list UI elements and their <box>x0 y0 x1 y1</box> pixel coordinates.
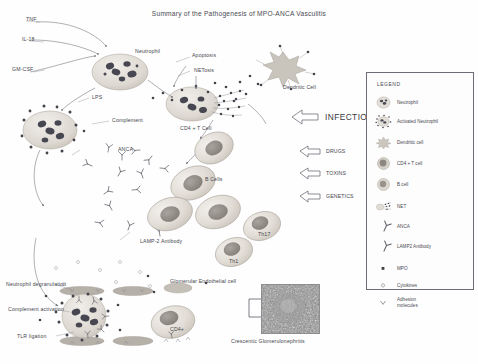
legend-item-anca: ANCA <box>375 219 410 234</box>
label-netosis: NETosis <box>194 67 214 74</box>
label-complement: Complement <box>112 117 143 124</box>
lamp2-antibody-icon <box>375 239 392 254</box>
label-genetics: GENETICS <box>326 193 354 200</box>
mpo-icon <box>375 261 392 276</box>
legend-label: Adhesion molecules <box>397 297 418 309</box>
legend-item-dendritic-cell: Dendritic cell <box>375 135 423 150</box>
label-toxins: TOXINS <box>326 170 346 177</box>
neutrophil-adherent <box>39 289 144 344</box>
arrow-toxins <box>300 168 320 179</box>
glomerular-endothelial-cell-icon <box>164 283 192 293</box>
cytokines-icon <box>375 278 392 293</box>
label-lamp2-antibody: LAMP-2 Antibody <box>140 238 182 245</box>
anca-icon <box>375 219 392 234</box>
label-th17: Th17 <box>258 231 270 238</box>
diagram-canvas: Summary of the Pathogenesis of MPO-ANCA … <box>0 0 478 364</box>
label-cd4-t-cell: CD4 + T Cell <box>180 125 211 132</box>
label-th1: Th1 <box>229 258 238 265</box>
net-strands <box>212 90 246 115</box>
legend-title: LEGEND <box>377 81 401 87</box>
activated-neutrophil-icon <box>375 114 392 129</box>
neutrophil-netosis <box>166 87 246 121</box>
neutrophil-activated-left <box>21 105 86 155</box>
label-lps: LPS <box>92 94 102 101</box>
legend-item-net: NET <box>375 199 406 214</box>
legend-item-b-cell: B cell <box>375 177 408 192</box>
legend-item-neutrophil: Neutrophil <box>375 95 418 110</box>
arrow-genetics <box>300 191 320 202</box>
label-tlr-ligation: TLR ligation <box>17 333 46 340</box>
label-anca: ANCA <box>118 146 133 153</box>
legend-item-lamp2-antibody: LAMP2 Antibody <box>375 239 431 254</box>
cd4-positive-cell <box>148 302 198 342</box>
net-icon <box>375 199 392 214</box>
label-apoptosis: Apoptosis <box>192 52 216 59</box>
label-cd4-positive: CD4+ <box>170 326 184 333</box>
legend-label: B cell <box>397 182 408 188</box>
neutrophil-resting <box>92 54 148 90</box>
cd4-t-cell-icon <box>375 156 392 171</box>
adhesion-molecules-icon <box>375 295 392 310</box>
legend-item-cd4-t-cell: CD4 + T cell <box>375 156 422 171</box>
arrow-drugs <box>300 146 320 157</box>
b-cell-icon <box>375 177 392 192</box>
legend-item-adhesion-molecules: Adhesion molecules <box>375 295 418 310</box>
legend-panel: LEGEND Neutrophil <box>366 72 474 290</box>
legend-item-activated-neutrophil: Activated Neutrophil <box>375 114 438 129</box>
label-complement-activation: Complement activation <box>8 306 64 313</box>
legend-label: Cytokines <box>397 283 417 289</box>
label-drugs: DRUGS <box>326 148 345 155</box>
process-arrows <box>34 66 266 306</box>
legend-label: ANCA <box>397 224 410 230</box>
legend-label: NET <box>397 204 406 210</box>
caption-outcome: Crescentic Glomerulonephritis <box>231 338 305 345</box>
legend-label: LAMP2 Antibody <box>397 244 431 250</box>
cytokine-particles-bottom <box>55 261 152 288</box>
label-il18: IL-18 <box>22 36 35 43</box>
neutrophil-icon <box>375 95 392 110</box>
label-tnf: TNF <box>26 16 37 23</box>
label-dendritic-cell: Dendritic Cell <box>283 84 316 91</box>
label-glomerular-endothelial-cell: Glomerular Endothelial cell <box>170 278 236 285</box>
legend-item-mpo: MPO <box>375 261 407 276</box>
cd4-t-cell <box>190 126 239 170</box>
label-neutrophil: Neutrophil <box>135 48 160 55</box>
label-neutrophil-degranulation: Neutrophil degranulation <box>6 281 66 288</box>
legend-label: MPO <box>397 266 407 272</box>
arrow-infection <box>292 110 318 124</box>
legend-label: Activated Neutrophil <box>397 119 438 125</box>
legend-label: Neutrophil <box>397 100 418 106</box>
legend-label: Dendritic cell <box>397 140 423 146</box>
crescentic-glomerulonephritis-image <box>261 284 320 334</box>
label-gmcsf: GM-CSF <box>12 66 33 73</box>
label-b-cells: B Cells <box>205 176 222 183</box>
legend-item-cytokines: Cytokines <box>375 278 417 293</box>
legend-label: CD4 + T cell <box>397 161 422 167</box>
dendritic-cell-icon <box>375 135 392 150</box>
